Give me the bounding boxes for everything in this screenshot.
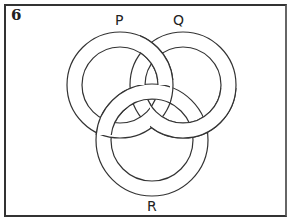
interlocking-rings-diagram (0, 0, 296, 224)
